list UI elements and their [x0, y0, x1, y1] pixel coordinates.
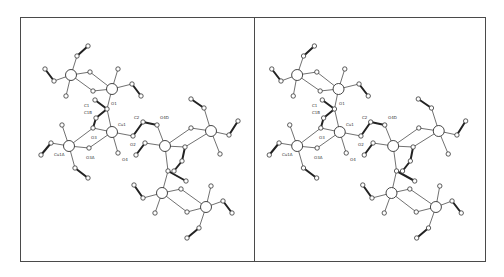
atom [383, 123, 387, 127]
atom [455, 133, 459, 137]
atom-label: C2 [362, 115, 368, 120]
atom [344, 151, 348, 155]
atom [105, 107, 109, 111]
atom [320, 98, 324, 102]
atom [446, 152, 450, 156]
atom [131, 134, 135, 138]
atom [141, 120, 145, 124]
metal-atom [107, 127, 118, 138]
atom-label: C1B [312, 110, 320, 115]
atom-label: Cu1A [282, 152, 293, 157]
atom [218, 152, 222, 156]
atom [416, 97, 420, 101]
atom-label: Cu1 [118, 122, 126, 127]
atom [382, 211, 386, 215]
atom [49, 141, 53, 145]
atom [368, 120, 372, 124]
atom [64, 94, 68, 98]
atom-label: Cu1A [54, 152, 65, 157]
atom [359, 134, 363, 138]
stereo-figure: Cu1Cu1AO1C1C1BO3O3AO4O2C2O4D Cu1Cu1AO1C1… [0, 0, 504, 277]
atom [43, 67, 47, 71]
right-view: Cu1Cu1AO1C1C1BO3O3AO4O2C2O4D [267, 44, 468, 240]
atom [394, 169, 398, 173]
metal-atom [430, 202, 441, 213]
atom [414, 236, 418, 240]
atom [91, 89, 95, 93]
metal-atom [157, 188, 168, 199]
atom [86, 176, 90, 180]
metal-atom [64, 141, 75, 152]
atom [230, 211, 234, 215]
atom [270, 67, 274, 71]
atom-label: O4 [350, 157, 356, 162]
metal-atom [388, 141, 399, 152]
atom-label: O1 [111, 101, 117, 106]
atom-label: C1 [84, 103, 90, 108]
atom [87, 146, 91, 150]
atom [93, 98, 97, 102]
atom [166, 169, 170, 173]
atom [189, 97, 193, 101]
atom [172, 169, 176, 173]
atom [189, 126, 193, 130]
atom [39, 153, 43, 157]
atom [134, 153, 138, 157]
left-view: Cu1Cu1AO1C1C1BO3O3AO4O2C2O4D [39, 44, 240, 240]
atom [429, 106, 433, 110]
atom [183, 145, 187, 149]
atom [291, 94, 295, 98]
atom [315, 70, 319, 74]
atom [141, 196, 145, 200]
metal-atom [433, 126, 444, 137]
atom [318, 89, 322, 93]
atom [371, 141, 375, 145]
atom [185, 236, 189, 240]
atom-label: C1B [84, 110, 92, 115]
atom [185, 210, 189, 214]
atom [221, 199, 225, 203]
atom [450, 199, 454, 203]
metal-atom [107, 84, 118, 95]
atom [370, 196, 374, 200]
atom [197, 226, 201, 230]
atom [73, 166, 77, 170]
atom [414, 210, 418, 214]
atom-label: O3A [314, 155, 323, 160]
atom [332, 107, 336, 111]
atom [116, 67, 120, 71]
atom [91, 126, 95, 130]
atom [88, 70, 92, 74]
atom [52, 79, 56, 83]
atom [132, 183, 136, 187]
atom [321, 116, 325, 120]
atom [361, 183, 365, 187]
atom [400, 169, 404, 173]
atom-label: O3 [91, 135, 97, 140]
atom [343, 67, 347, 71]
molecular-structure-stereo-pair: Cu1Cu1AO1C1C1BO3O3AO4O2C2O4D Cu1Cu1AO1C1… [0, 0, 504, 277]
atom-label: C2 [134, 115, 140, 120]
atom [184, 179, 188, 183]
atom [139, 94, 143, 98]
bond [168, 171, 186, 181]
atom [227, 133, 231, 137]
atom [426, 226, 430, 230]
atom [366, 94, 370, 98]
atom [312, 44, 316, 48]
atom-label: O3A [86, 155, 95, 160]
metal-atom [160, 141, 171, 152]
atom [277, 141, 281, 145]
atom [153, 211, 157, 215]
atom [413, 179, 417, 183]
atom [116, 151, 120, 155]
metal-atom [292, 70, 303, 81]
atom [202, 106, 206, 110]
atom [362, 153, 366, 157]
atom-label: O3 [319, 135, 325, 140]
atom-label: O4D [160, 115, 169, 120]
atom [357, 82, 361, 86]
atom [130, 82, 134, 86]
atom [267, 153, 271, 157]
atom [86, 44, 90, 48]
